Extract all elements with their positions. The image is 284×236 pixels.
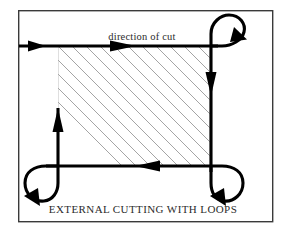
figure-caption: EXTERNAL CUTTING WITH LOOPS (49, 203, 237, 215)
hatched-workpiece (0, 0, 284, 166)
entry-arrow-icon (28, 41, 46, 52)
toolpath-diagram-canvas: direction of cut EXTERNAL CUTTING WITH L… (0, 0, 284, 236)
figure-external-cutting-with-loops: direction of cut EXTERNAL CUTTING WITH L… (0, 0, 284, 236)
direction-of-cut-label: direction of cut (108, 31, 175, 42)
